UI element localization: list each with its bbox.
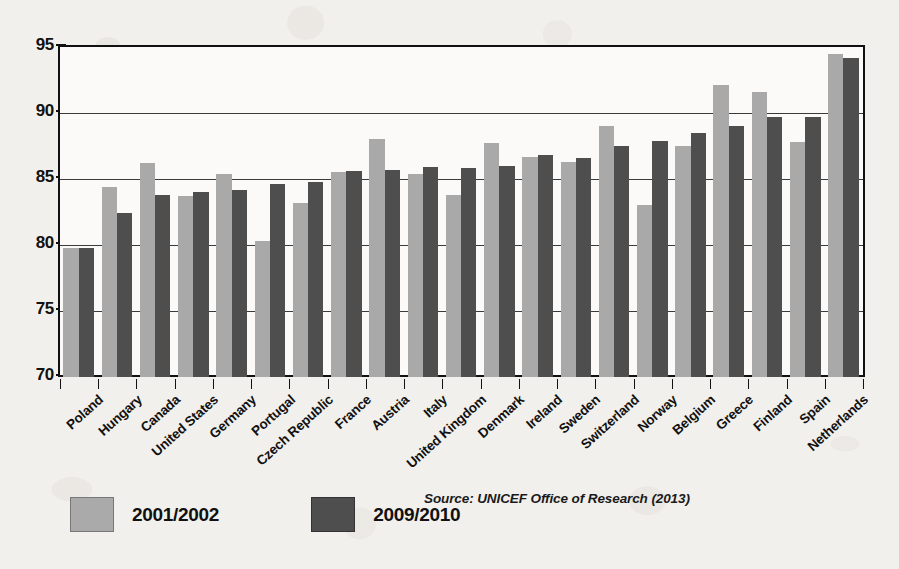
bar-italy-2001-2002 bbox=[408, 174, 423, 377]
bar-poland-2009-2010 bbox=[79, 248, 94, 377]
bar-group bbox=[366, 47, 404, 377]
x-axis-label-greece: Greece bbox=[713, 392, 756, 433]
bar-portugal-2009-2010 bbox=[270, 184, 285, 377]
bar-germany-2001-2002 bbox=[216, 174, 231, 377]
bar-italy-2009-2010 bbox=[423, 167, 438, 377]
bar-hungary-2009-2010 bbox=[117, 213, 132, 377]
bar-norway-2001-2002 bbox=[637, 205, 652, 377]
y-tick-label-90: 90 bbox=[20, 101, 54, 121]
bar-germany-2009-2010 bbox=[232, 190, 247, 377]
bar-group bbox=[825, 47, 863, 377]
bar-group bbox=[481, 47, 519, 377]
bar-norway-2009-2010 bbox=[652, 141, 667, 377]
bar-czech-republic-2001-2002 bbox=[293, 203, 308, 377]
x-tick-mark bbox=[863, 379, 864, 389]
y-tick-label-85: 85 bbox=[20, 167, 54, 187]
bar-hungary-2001-2002 bbox=[102, 187, 117, 377]
bar-group bbox=[595, 47, 633, 377]
x-axis-label-france: France bbox=[332, 392, 374, 432]
bar-sweden-2001-2002 bbox=[561, 162, 576, 377]
x-tick-mark bbox=[328, 379, 329, 389]
bar-united-kingdom-2001-2002 bbox=[446, 195, 461, 377]
x-tick-mark bbox=[404, 379, 405, 389]
bar-group bbox=[748, 47, 786, 377]
bar-austria-2001-2002 bbox=[369, 139, 384, 377]
bar-netherlands-2009-2010 bbox=[843, 58, 858, 377]
bars-layer bbox=[60, 47, 863, 377]
y-tick-label-95: 95 bbox=[20, 35, 54, 55]
x-tick-mark bbox=[672, 379, 673, 389]
y-axis: 707580859095 bbox=[10, 45, 54, 377]
bar-ireland-2001-2002 bbox=[522, 157, 537, 377]
x-tick-mark bbox=[442, 379, 443, 389]
bar-spain-2001-2002 bbox=[790, 142, 805, 377]
x-tick-mark bbox=[519, 379, 520, 389]
x-tick-mark bbox=[60, 379, 61, 389]
bar-canada-2009-2010 bbox=[155, 195, 170, 377]
bar-netherlands-2001-2002 bbox=[828, 54, 843, 377]
bar-denmark-2009-2010 bbox=[499, 166, 514, 377]
x-tick-mark bbox=[710, 379, 711, 389]
bar-group bbox=[175, 47, 213, 377]
bar-france-2009-2010 bbox=[346, 171, 361, 377]
bar-ireland-2009-2010 bbox=[538, 155, 553, 377]
y-tick-label-80: 80 bbox=[20, 233, 54, 253]
y-tick-label-75: 75 bbox=[20, 299, 54, 319]
legend-item-2001-2002: 2001/2002 bbox=[70, 497, 219, 532]
bar-sweden-2009-2010 bbox=[576, 158, 591, 377]
x-tick-mark bbox=[595, 379, 596, 389]
bar-group bbox=[136, 47, 174, 377]
x-axis-label-finland: Finland bbox=[750, 392, 795, 434]
x-tick-mark bbox=[787, 379, 788, 389]
x-tick-mark bbox=[175, 379, 176, 389]
x-tick-mark bbox=[481, 379, 482, 389]
bar-united-states-2009-2010 bbox=[193, 192, 208, 377]
bar-switzerland-2009-2010 bbox=[614, 146, 629, 377]
x-tick-mark bbox=[251, 379, 252, 389]
bar-group bbox=[710, 47, 748, 377]
bar-group bbox=[442, 47, 480, 377]
bar-spain-2009-2010 bbox=[805, 117, 820, 377]
bar-finland-2009-2010 bbox=[767, 117, 782, 377]
bar-belgium-2009-2010 bbox=[691, 133, 706, 377]
bar-finland-2001-2002 bbox=[752, 92, 767, 377]
x-tick-mark bbox=[289, 379, 290, 389]
bar-group bbox=[557, 47, 595, 377]
bar-portugal-2001-2002 bbox=[255, 241, 270, 377]
bar-group bbox=[98, 47, 136, 377]
bar-group bbox=[328, 47, 366, 377]
bar-austria-2009-2010 bbox=[385, 170, 400, 377]
x-axis-label-austria: Austria bbox=[369, 392, 413, 433]
chart-legend: 2001/2002 2009/2010 bbox=[70, 497, 460, 532]
legend-swatch-icon-2009-2010 bbox=[311, 497, 355, 532]
bar-poland-2001-2002 bbox=[63, 248, 78, 377]
bar-united-states-2001-2002 bbox=[178, 196, 193, 377]
y-tick-label-70: 70 bbox=[20, 365, 54, 385]
bar-belgium-2001-2002 bbox=[675, 146, 690, 377]
bar-group bbox=[60, 47, 98, 377]
x-tick-mark bbox=[136, 379, 137, 389]
x-axis-label-italy: Italy bbox=[421, 392, 450, 421]
bar-canada-2001-2002 bbox=[140, 163, 155, 377]
bar-group bbox=[672, 47, 710, 377]
bar-greece-2009-2010 bbox=[729, 126, 744, 377]
bar-group bbox=[289, 47, 327, 377]
x-tick-mark bbox=[557, 379, 558, 389]
source-note: Source: UNICEF Office of Research (2013) bbox=[424, 491, 690, 506]
x-tick-mark bbox=[366, 379, 367, 389]
bar-france-2001-2002 bbox=[331, 172, 346, 377]
x-tick-mark bbox=[98, 379, 99, 389]
x-tick-mark bbox=[825, 379, 826, 389]
bar-greece-2001-2002 bbox=[713, 85, 728, 377]
legend-label-2009-2010: 2009/2010 bbox=[373, 504, 460, 526]
bar-switzerland-2001-2002 bbox=[599, 126, 614, 377]
x-tick-mark bbox=[634, 379, 635, 389]
bar-czech-republic-2009-2010 bbox=[308, 182, 323, 377]
bar-group bbox=[634, 47, 672, 377]
x-tick-mark bbox=[748, 379, 749, 389]
legend-swatch-icon-2001-2002 bbox=[70, 497, 114, 532]
bar-group bbox=[787, 47, 825, 377]
legend-label-2001-2002: 2001/2002 bbox=[132, 504, 219, 526]
x-tick-mark bbox=[213, 379, 214, 389]
bar-denmark-2001-2002 bbox=[484, 143, 499, 377]
